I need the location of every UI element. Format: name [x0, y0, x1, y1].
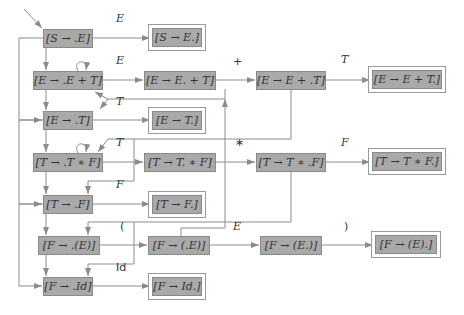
state-s5: [E → E + T.] — [372, 70, 442, 89]
edge-label: E — [116, 12, 124, 25]
edge-label: T — [341, 53, 348, 66]
state-s15: [F → (.E)] — [148, 236, 210, 255]
state-s18: [F → .Id] — [43, 277, 93, 296]
state-s2: [E → .E + T] — [33, 71, 103, 90]
state-s17: [F → (E).] — [375, 235, 437, 254]
edge-label: + — [233, 55, 242, 68]
state-s8: [T → .T ∗ F] — [33, 153, 103, 172]
edge-label: T — [116, 136, 123, 149]
state-s19: [F → Id.] — [152, 277, 202, 296]
edge-label: E — [116, 54, 124, 67]
edge-label: T — [116, 95, 123, 108]
state-s0: [S → .E] — [43, 29, 93, 48]
edge-label: F — [116, 178, 124, 191]
state-s6: [E → .T] — [43, 111, 93, 130]
state-s4: [E → E + .T] — [256, 71, 326, 90]
state-s7: [E → T.] — [152, 111, 202, 130]
state-s14: [F → .(E)] — [38, 236, 100, 255]
state-s12: [T → .F] — [43, 195, 93, 214]
edge-label: ) — [344, 220, 348, 233]
edge-label: E — [233, 220, 241, 233]
state-s1: [S → E.] — [152, 28, 202, 47]
state-s11: [T → T ∗ F.] — [372, 152, 442, 171]
state-s13: [T → F.] — [152, 195, 202, 214]
edge-label: ( — [120, 220, 124, 233]
state-s10: [T → T ∗ .F] — [256, 153, 326, 172]
edge-label: Id — [116, 261, 126, 274]
state-s9: [T → T. ∗ F] — [144, 153, 216, 172]
edge-label: ∗ — [235, 136, 244, 149]
edge-label: F — [341, 136, 349, 149]
state-s16: [F → (E.)] — [260, 236, 322, 255]
state-s3: [E → E. + T] — [144, 71, 216, 90]
lr0-item-nfa-diagram: [S → .E][S → E.][E → .E + T][E → E. + T]… — [0, 0, 464, 315]
